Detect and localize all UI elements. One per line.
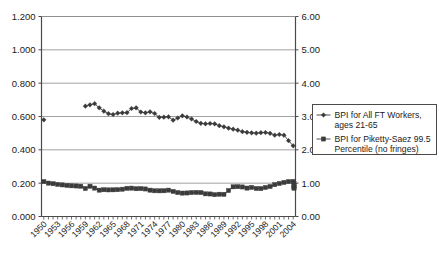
data-point-marker <box>134 187 138 191</box>
legend-label-line1: BPI for All FT Workers, <box>335 110 422 120</box>
data-point-marker <box>286 179 290 183</box>
data-point-marker <box>273 183 277 187</box>
data-point-marker <box>236 185 240 189</box>
data-point-marker <box>162 189 166 193</box>
data-point-marker <box>199 190 203 194</box>
chart-legend: BPI for All FT Workers,ages 21-65BPI for… <box>313 105 437 155</box>
right-axis-tick-label: 6.00 <box>302 11 321 22</box>
data-point-marker <box>46 181 50 185</box>
data-point-marker <box>268 184 272 188</box>
data-point-marker <box>250 185 254 189</box>
data-point-marker <box>176 190 180 194</box>
left-axis-tick-label: 1.200 <box>12 11 36 22</box>
data-point-marker <box>143 187 147 191</box>
data-point-marker <box>185 191 189 195</box>
data-point-marker <box>120 187 124 191</box>
data-point-marker <box>245 186 249 190</box>
left-axis-tick-label: 0.000 <box>12 211 36 222</box>
data-point-marker <box>88 184 92 188</box>
data-point-marker <box>194 190 198 194</box>
data-point-marker <box>222 192 226 196</box>
data-point-marker <box>102 188 106 192</box>
data-point-marker <box>65 183 69 187</box>
data-point-marker <box>93 186 97 190</box>
data-point-marker <box>97 188 101 192</box>
chart-container: 0.0000.2000.4000.6000.8001.0001.200 0.00… <box>0 0 439 269</box>
data-point-marker <box>231 185 235 189</box>
data-point-marker <box>166 188 170 192</box>
data-point-marker <box>189 190 193 194</box>
data-point-marker <box>240 185 244 189</box>
data-point-marker <box>111 188 115 192</box>
line-chart: 0.0000.2000.4000.6000.8001.0001.200 0.00… <box>0 0 439 269</box>
legend-label-line1: BPI for Piketty-Saez 99.5 <box>335 134 431 144</box>
data-point-marker <box>79 184 83 188</box>
data-point-marker <box>213 193 217 197</box>
left-axis-tick-label: 0.200 <box>12 178 36 189</box>
data-point-marker <box>226 188 230 192</box>
data-point-marker <box>277 181 281 185</box>
data-point-marker <box>259 186 263 190</box>
data-point-marker <box>116 188 120 192</box>
legend-entry-2[interactable]: BPI for Piketty-Saez 99.5Percentile (no … <box>317 134 431 154</box>
data-point-marker <box>153 189 157 193</box>
data-point-marker <box>171 189 175 193</box>
right-axis-tick-label: 0.00 <box>302 211 321 222</box>
data-point-marker <box>139 186 143 190</box>
data-point-marker <box>203 192 207 196</box>
left-axis-tick-label: 1.000 <box>12 44 36 55</box>
data-point-marker <box>292 184 296 188</box>
data-point-marker <box>180 191 184 195</box>
data-point-marker <box>125 186 129 190</box>
data-point-marker <box>254 186 258 190</box>
data-point-marker <box>217 192 221 196</box>
right-axis-tick-label: 4.00 <box>302 78 321 89</box>
data-point-marker <box>51 182 55 186</box>
legend-label-line2: ages 21-65 <box>335 120 378 130</box>
right-axis-tick-label: 5.00 <box>302 44 321 55</box>
data-point-marker <box>282 180 286 184</box>
left-axis-tick-label: 0.400 <box>12 144 36 155</box>
left-axis-tick-label: 0.600 <box>12 111 36 122</box>
data-point-marker <box>263 185 267 189</box>
left-axis-tick-label: 0.800 <box>12 78 36 89</box>
data-point-marker <box>60 183 64 187</box>
data-point-marker <box>208 192 212 196</box>
legend-label-line2: Percentile (no fringes) <box>335 144 419 154</box>
data-point-marker <box>56 182 60 186</box>
data-point-marker <box>106 188 110 192</box>
data-point-marker <box>129 186 133 190</box>
right-axis-tick-label: 1.00 <box>302 178 321 189</box>
data-point-marker <box>69 184 73 188</box>
data-point-marker <box>83 186 87 190</box>
data-point-marker <box>157 189 161 193</box>
data-point-marker <box>42 179 46 183</box>
data-point-marker <box>148 188 152 192</box>
data-point-marker <box>74 184 78 188</box>
data-point-marker <box>321 137 325 141</box>
